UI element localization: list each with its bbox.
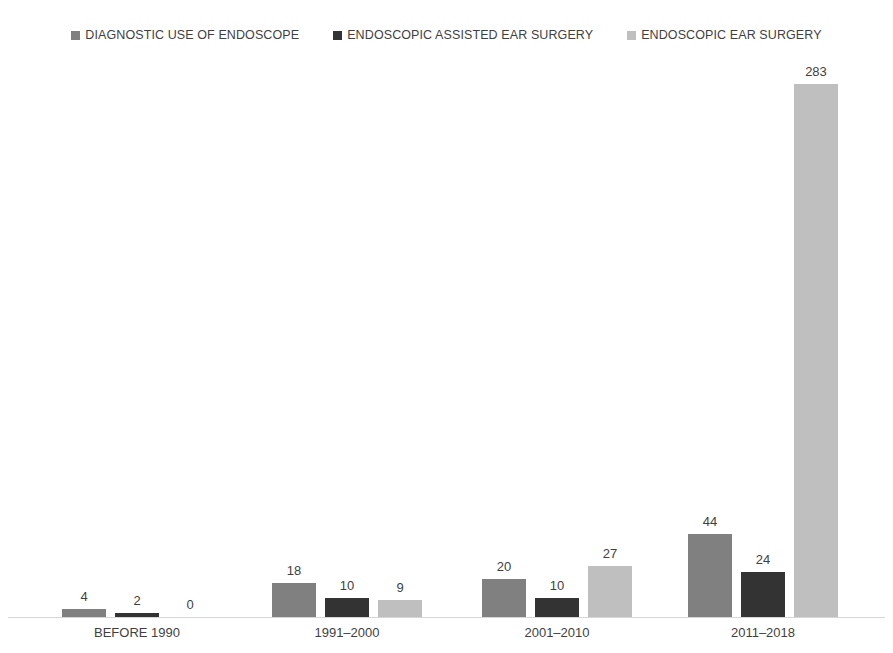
bar-value-label: 24 xyxy=(741,552,785,567)
bar-value-label: 18 xyxy=(272,563,316,578)
bar xyxy=(272,583,316,617)
bar xyxy=(794,84,838,617)
bar xyxy=(62,609,106,617)
bar-value-label: 10 xyxy=(325,578,369,593)
bar xyxy=(378,600,422,617)
bar xyxy=(741,572,785,617)
bar xyxy=(325,598,369,617)
x-axis-line xyxy=(8,617,885,618)
bar xyxy=(115,613,159,617)
bar-value-label: 2 xyxy=(115,593,159,608)
bar xyxy=(588,566,632,617)
bar xyxy=(482,579,526,617)
bar-value-label: 9 xyxy=(378,580,422,595)
x-axis-category-label: BEFORE 1990 xyxy=(62,625,212,640)
bar-value-label: 20 xyxy=(482,559,526,574)
x-axis-category-label: 2011–2018 xyxy=(688,625,838,640)
bar xyxy=(688,534,732,617)
bar-value-label: 10 xyxy=(535,578,579,593)
bar-value-label: 4 xyxy=(62,589,106,604)
bar-value-label: 27 xyxy=(588,546,632,561)
chart-plot-area: 420BEFORE 1990181091991–20002010272001–2… xyxy=(0,0,893,653)
bar-value-label: 0 xyxy=(168,597,212,612)
bar-value-label: 44 xyxy=(688,514,732,529)
bar-value-label: 283 xyxy=(794,64,838,79)
bar xyxy=(535,598,579,617)
x-axis-category-label: 1991–2000 xyxy=(272,625,422,640)
x-axis-category-label: 2001–2010 xyxy=(482,625,632,640)
